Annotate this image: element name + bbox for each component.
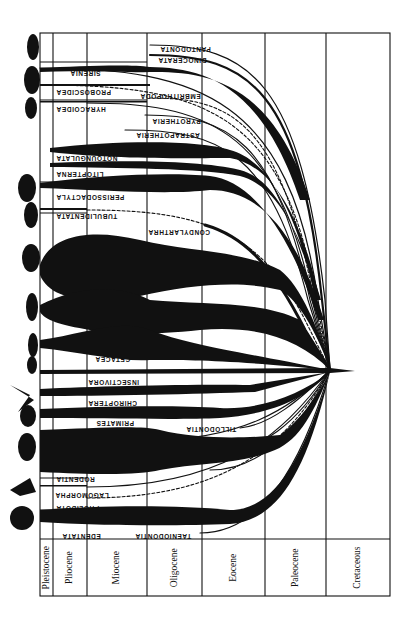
lineage-label-hyracoidea: HYRACOIDEA	[56, 105, 106, 112]
period-label-paleocene: Paleocene	[291, 540, 301, 596]
period-label-oligocene: Oligocene	[170, 540, 180, 596]
lineage-label-dinocerata: DINOCERATA	[158, 56, 206, 63]
period-label-pleistocene: Pleistocene	[42, 540, 52, 596]
lineage-label-litopterna: LITOPTERNA	[56, 170, 103, 177]
period-label-cretaceous: Cretaceous	[353, 540, 363, 596]
lineage-label-perissodactyla: PERISSODACTYLA	[56, 193, 124, 200]
phylogeny-diagram: PANTODONTA DINOCERATA SIRENIA PROBOSCIDE…	[0, 0, 401, 630]
lineage-label-pholidota: PHOLIDOTA	[56, 504, 99, 511]
lineage-label-tubulidentata: TUBULIDENTATA	[56, 212, 117, 219]
lineage-label-sirenia: SIRENIA	[70, 69, 101, 76]
lineage-label-carnivora: CARNIVORA	[90, 318, 135, 325]
lineage-label-tillodontia: TILLODONTIA	[186, 425, 236, 432]
lineage-label-cetacea: CETACEA	[95, 355, 130, 362]
lineage-label-pantodonta: PANTODONTA	[160, 45, 211, 52]
lineage-label-artiodactyla: ARTIODACTYLA	[56, 275, 114, 282]
lineage-label-edentata: EDENTATA	[62, 532, 101, 539]
lineage-label-insectivora: INSECTIVORA	[88, 378, 139, 385]
animal-silhouettes	[10, 34, 40, 530]
lineage-label-taeniodontia: TAENIODONTIA	[135, 532, 191, 539]
lineage-label-proboscidea: PROBOSCIDEA	[56, 88, 111, 95]
lineage-label-condylarthra: CONDYLARTHRA	[148, 228, 210, 235]
lineage-label-astrapotheria: ASTRAPOTHERIA	[136, 131, 200, 138]
lineage-label-chiroptera: CHIROPTERA	[88, 399, 137, 406]
lineage-label-notoungulata: NOTOUNGULATA	[56, 154, 117, 161]
lineage-label-primates: PRIMATES	[96, 419, 134, 426]
lineage-label-pyrotheria: PYROTHERIA	[152, 117, 201, 124]
period-label-pliocene: Pliocene	[65, 540, 75, 596]
lineage-label-lagomorpha: LAGOMORPHA	[55, 491, 109, 498]
period-label-eocene: Eocene	[229, 540, 239, 596]
lineage-label-rodentia: RODENTIA	[56, 475, 95, 482]
lineage-label-embrithopoda: EMBRITHOPODA	[140, 92, 201, 99]
period-label-miocene: Miocene	[112, 540, 122, 596]
